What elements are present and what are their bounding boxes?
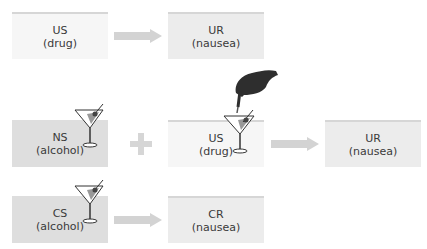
us-drug-box-row1: US (drug)	[12, 12, 108, 59]
us-label: (drug)	[43, 37, 77, 50]
ur-nausea-box-row1: UR (nausea)	[168, 12, 264, 59]
arrow-right-icon	[114, 29, 162, 43]
arrow-right-icon	[271, 137, 319, 151]
ur-abbr: UR	[365, 132, 381, 145]
plus-icon	[130, 133, 152, 155]
arrow-right-icon	[114, 213, 162, 227]
cr-abbr: CR	[208, 208, 223, 221]
cs-abbr: CS	[53, 207, 68, 220]
cr-nausea-box: CR (nausea)	[168, 196, 264, 243]
ur-label: (nausea)	[192, 37, 241, 50]
martini-glass-icon	[73, 180, 107, 226]
ur-abbr: UR	[208, 24, 224, 37]
ur-nausea-box-row2: UR (nausea)	[325, 120, 421, 167]
ur-label: (nausea)	[349, 145, 398, 158]
ns-abbr: NS	[52, 131, 67, 144]
cr-label: (nausea)	[192, 221, 241, 234]
us-abbr: US	[52, 24, 67, 37]
martini-glass-icon	[222, 108, 258, 156]
martini-glass-icon	[73, 104, 107, 150]
